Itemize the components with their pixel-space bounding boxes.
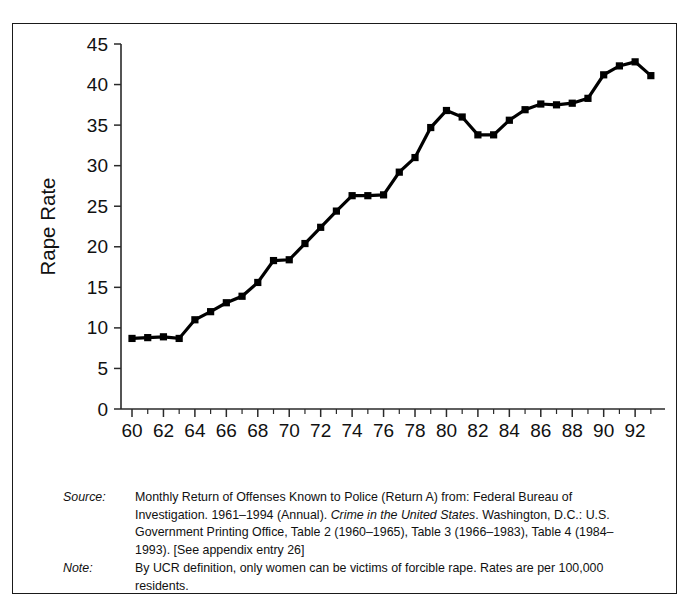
x-tick-label: 76: [373, 420, 394, 441]
data-point-marker: [128, 335, 135, 342]
data-point-marker: [569, 100, 576, 107]
y-tick-label: 20: [87, 236, 108, 257]
data-point-marker: [506, 117, 513, 124]
y-tick-label: 10: [87, 317, 108, 338]
data-point-marker: [537, 100, 544, 107]
note-text: By UCR definition, only women can be vic…: [135, 560, 648, 595]
chart-plot-area: 051015202530354045 606264666870727476788…: [13, 24, 678, 444]
source-row: Source: Monthly Return of Offenses Known…: [63, 489, 648, 559]
x-tick-label: 60: [121, 420, 142, 441]
note-row: Note: By UCR definition, only women can …: [63, 560, 648, 595]
data-point-marker: [144, 334, 151, 341]
data-point-marker: [238, 293, 245, 300]
y-tick-label: 5: [97, 358, 108, 379]
data-point-marker: [521, 106, 528, 113]
x-tick-label: 84: [499, 420, 521, 441]
x-tick-label: 86: [530, 420, 551, 441]
data-point-marker: [396, 169, 403, 176]
data-point-marker: [553, 101, 560, 108]
x-tick-label: 82: [467, 420, 488, 441]
data-point-marker: [333, 207, 340, 214]
data-point-marker: [207, 308, 214, 315]
data-point-marker: [584, 95, 591, 102]
data-point-marker: [364, 192, 371, 199]
data-point-marker: [443, 107, 450, 114]
x-tick-label: 68: [247, 420, 268, 441]
y-tick-label: 45: [87, 34, 108, 55]
data-point-marker: [380, 191, 387, 198]
data-series-markers: [128, 58, 654, 342]
x-tick-label: 78: [404, 420, 425, 441]
source-publication-title: Crime in the United States: [331, 508, 476, 522]
x-tick-label: 72: [310, 420, 331, 441]
data-point-marker: [223, 299, 230, 306]
note-label: Note:: [63, 560, 135, 578]
x-tick-label: 90: [593, 420, 614, 441]
y-tick-label: 35: [87, 115, 108, 136]
figure-frame: 051015202530354045 606264666870727476788…: [12, 23, 677, 594]
data-point-marker: [349, 192, 356, 199]
x-tick-label: 92: [625, 420, 646, 441]
data-point-marker: [459, 113, 466, 120]
y-tick-label: 40: [87, 74, 108, 95]
x-tick-label: 74: [342, 420, 364, 441]
x-tick-label: 66: [216, 420, 237, 441]
data-point-marker: [647, 72, 654, 79]
data-point-marker: [632, 58, 639, 65]
x-tick-label: 64: [184, 420, 206, 441]
source-text: Monthly Return of Offenses Known to Poli…: [135, 489, 648, 559]
data-point-marker: [176, 335, 183, 342]
y-axis-ticks: 051015202530354045: [87, 34, 121, 420]
data-point-marker: [600, 71, 607, 78]
data-point-marker: [411, 154, 418, 161]
y-tick-label: 25: [87, 196, 108, 217]
x-tick-label: 70: [279, 420, 300, 441]
y-tick-label: 30: [87, 155, 108, 176]
data-point-marker: [490, 131, 497, 138]
y-axis-title: Rape Rate: [36, 177, 59, 275]
figure-footnotes: Source: Monthly Return of Offenses Known…: [63, 489, 648, 597]
y-tick-label: 15: [87, 277, 108, 298]
data-point-marker: [254, 279, 261, 286]
y-tick-label: 0: [97, 399, 108, 420]
x-tick-label: 80: [436, 420, 457, 441]
rape-rate-line-chart: 051015202530354045 606264666870727476788…: [13, 24, 678, 444]
x-tick-label: 88: [562, 420, 583, 441]
data-point-marker: [616, 62, 623, 69]
source-label: Source:: [63, 489, 135, 507]
data-point-marker: [286, 256, 293, 263]
data-point-marker: [474, 131, 481, 138]
data-point-marker: [317, 224, 324, 231]
data-point-marker: [270, 257, 277, 264]
data-point-marker: [160, 333, 167, 340]
x-tick-label: 62: [153, 420, 174, 441]
data-point-marker: [191, 316, 198, 323]
data-point-marker: [301, 240, 308, 247]
data-point-marker: [427, 124, 434, 131]
x-axis-ticks: 6062646668707274767880828486889092: [121, 409, 650, 441]
